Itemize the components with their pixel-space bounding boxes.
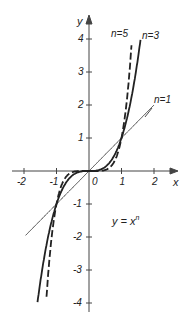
- y-tick-label: -1: [73, 199, 82, 209]
- y-tick-label: 1: [78, 133, 84, 143]
- y-tick-label: -4: [73, 298, 82, 308]
- formula-base: y = x: [112, 215, 136, 227]
- series-label-n3: n=3: [142, 31, 159, 41]
- formula-label: y = xn: [112, 214, 139, 227]
- x-tick-label: 0: [92, 177, 98, 187]
- x-tick-label: 2: [152, 177, 158, 187]
- x-tick-label: -1: [50, 177, 59, 187]
- y-tick-label: -2: [73, 232, 82, 242]
- y-tick-label: -3: [73, 265, 82, 275]
- x-tick-label: 1: [120, 177, 126, 187]
- x-axis-arrow-icon: [170, 168, 178, 174]
- y-tick-label: 3: [78, 67, 84, 77]
- power-function-chart: [0, 0, 188, 321]
- series-label-n1: n=1: [154, 95, 171, 105]
- x-axis-label: x: [173, 177, 179, 188]
- y-axis-arrow-icon: [86, 15, 92, 24]
- series-label-n5: n=5: [111, 29, 128, 39]
- y-tick-label: 4: [78, 34, 84, 44]
- axes: [12, 15, 178, 312]
- y-axis-label: y: [77, 16, 83, 27]
- formula-exponent: n: [136, 214, 140, 221]
- x-tick-label: -2: [17, 177, 26, 187]
- y-tick-label: 2: [78, 100, 84, 110]
